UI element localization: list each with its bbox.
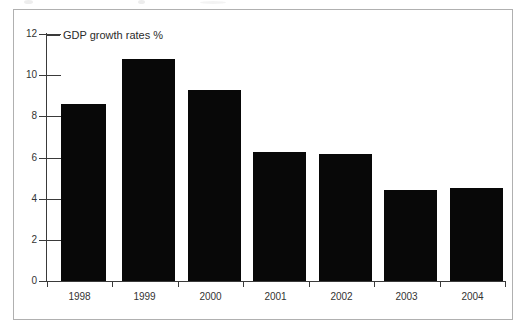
y-axis-tick-label: 10 bbox=[13, 70, 37, 80]
plot-area: GDP growth rates % 024681012 19981999200… bbox=[13, 9, 513, 320]
bar bbox=[122, 59, 175, 281]
y-axis-tick bbox=[39, 158, 47, 159]
y-axis-tick-inner bbox=[47, 240, 61, 241]
y-axis-tick-label: 12 bbox=[13, 29, 37, 39]
y-axis-label-slot: 12 bbox=[13, 34, 37, 35]
y-axis-tick bbox=[39, 116, 47, 117]
y-axis-tick-label: 0 bbox=[13, 276, 37, 286]
x-axis-tick-label: 2000 bbox=[178, 292, 243, 302]
chart-screenshot: GDP growth rates % 024681012 19981999200… bbox=[0, 0, 527, 333]
x-axis-tick bbox=[47, 281, 48, 287]
y-axis-tick bbox=[39, 75, 47, 76]
x-axis-tick-label: 1998 bbox=[47, 292, 112, 302]
scan-artifact bbox=[138, 0, 145, 4]
bar bbox=[188, 90, 241, 281]
x-axis-tick-label: 2003 bbox=[374, 292, 439, 302]
x-axis-tick bbox=[178, 281, 179, 287]
x-axis-tick bbox=[309, 281, 310, 287]
y-axis-tick-inner bbox=[47, 116, 61, 117]
y-axis-tick-label: 8 bbox=[13, 111, 37, 121]
bar bbox=[384, 190, 437, 281]
x-axis-tick bbox=[440, 281, 441, 287]
y-axis-tick-label: 2 bbox=[13, 235, 37, 245]
x-axis-tick bbox=[112, 281, 113, 287]
y-axis-tick-inner bbox=[47, 34, 61, 35]
scan-artifact bbox=[24, 0, 33, 4]
x-axis-tick bbox=[505, 281, 506, 287]
y-axis-label-slot: 2 bbox=[13, 240, 37, 241]
title-leader-line bbox=[46, 35, 60, 36]
y-axis-tick-inner bbox=[47, 199, 61, 200]
bar bbox=[450, 188, 503, 281]
y-axis-tick bbox=[39, 240, 47, 241]
x-axis-tick-label: 2002 bbox=[309, 292, 374, 302]
bar bbox=[61, 104, 106, 281]
y-axis-tick-label: 6 bbox=[13, 153, 37, 163]
x-axis-tick bbox=[243, 281, 244, 287]
x-axis-tick-label: 2004 bbox=[440, 292, 505, 302]
y-axis-label-slot: 0 bbox=[13, 281, 37, 282]
y-axis-label-slot: 6 bbox=[13, 158, 37, 159]
y-axis-tick bbox=[39, 199, 47, 200]
y-axis-tick bbox=[39, 34, 47, 35]
y-axis-tick-inner bbox=[47, 75, 61, 76]
y-axis-tick-inner bbox=[47, 158, 61, 159]
y-axis-label-slot: 8 bbox=[13, 116, 37, 117]
bar bbox=[319, 154, 372, 281]
y-axis-tick-label: 4 bbox=[13, 194, 37, 204]
y-axis-tick-inner bbox=[47, 281, 61, 282]
x-axis-tick bbox=[374, 281, 375, 287]
y-axis-tick bbox=[39, 281, 47, 282]
y-axis-label-slot: 4 bbox=[13, 199, 37, 200]
y-axis-label-slot: 10 bbox=[13, 75, 37, 76]
bar bbox=[253, 152, 306, 281]
chart-title: GDP growth rates % bbox=[63, 29, 163, 41]
x-axis-line bbox=[46, 281, 505, 282]
x-axis-tick-label: 2001 bbox=[243, 292, 308, 302]
scan-artifact bbox=[200, 1, 226, 4]
x-axis-tick-label: 1999 bbox=[112, 292, 177, 302]
